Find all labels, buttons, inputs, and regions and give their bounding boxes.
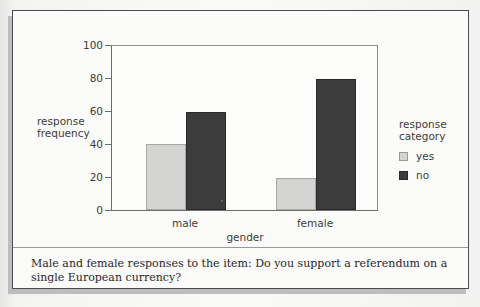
bar-male-no[interactable] [186,112,226,210]
legend: response category yes no [399,118,469,188]
legend-label-yes: yes [416,150,434,162]
bar-male-yes[interactable] [146,144,186,210]
x-axis-title: gender [205,231,285,243]
y-tick-label-100: 100 [53,40,103,50]
y-axis-title-line-2: frequency [37,127,109,139]
caption-divider [13,247,468,248]
y-axis-title: response frequency [37,115,109,139]
figure-caption: Male and female responses to the item: D… [31,257,451,285]
scan-artifact-speck [221,200,223,202]
legend-title-line-1: response [399,118,469,130]
legend-item-yes[interactable]: yes [399,150,469,162]
plot-area [111,45,378,211]
x-tick-label-female: female [275,217,355,229]
legend-swatch-no-icon [399,171,408,180]
figure-box: 100 80 60 40 20 0 response frequency [12,10,469,289]
legend-title-line-2: category [399,130,469,142]
legend-title: response category [399,118,469,142]
x-tick-label-male: male [145,217,225,229]
legend-swatch-yes-icon [399,152,408,161]
bar-female-yes[interactable] [276,178,316,210]
y-axis-title-line-1: response [37,115,109,127]
bar-female-no[interactable] [316,79,356,210]
y-tick-label-0: 0 [53,205,103,215]
legend-label-no: no [416,169,429,181]
y-tick-label-40: 40 [53,139,103,149]
figure-page: 100 80 60 40 20 0 response frequency [0,0,480,307]
y-tick-label-80: 80 [53,73,103,83]
bar-chart: 100 80 60 40 20 0 response frequency [13,11,468,233]
y-tick-label-20: 20 [53,172,103,182]
legend-item-no[interactable]: no [399,169,469,181]
bars-layer [112,46,377,210]
